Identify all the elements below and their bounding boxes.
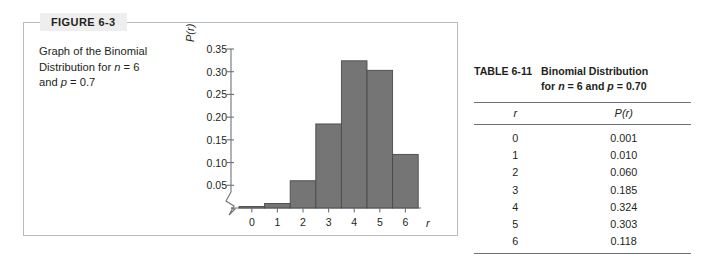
table-header-row: r P(r) [474,103,691,125]
chart-bar [393,154,419,208]
figure-caption-line-1: Graph of the Binomial [39,45,147,57]
cell-r: 2 [474,164,556,181]
figure-caption-line-2-prefix: Distribution for [39,61,114,73]
table-title-line-2-mid: = 6 and [565,80,608,92]
table-title-line-2-suffix: = 0.70 [614,80,647,92]
figure-caption: Graph of the Binomial Distribution for n… [39,44,189,91]
table-number-label: TABLE 6-11 [474,64,541,93]
chart-plot-area [190,30,440,235]
chart-bar [316,124,342,208]
table-bottom-rule-cell [474,254,691,255]
table-title: Binomial Distribution for n = 6 and p = … [541,64,648,93]
cell-r: 5 [474,215,556,232]
table-row: 40.324 [474,198,691,215]
column-header-pr: P(r) [556,103,691,125]
cell-r: 1 [474,147,556,164]
cell-probability: 0.303 [556,215,691,232]
chart-bar [367,70,393,208]
x-tick-label: 4 [346,217,362,227]
column-header-r: r [474,103,556,125]
table-row: 60.118 [474,233,691,254]
cell-r: 4 [474,198,556,215]
cell-r: 3 [474,181,556,198]
cell-probability: 0.324 [556,198,691,215]
cell-probability: 0.185 [556,181,691,198]
x-tick-label: 5 [372,217,388,227]
table-row: 00.001 [474,125,691,147]
x-tick-label: 3 [321,217,337,227]
binomial-distribution-table-block: TABLE 6-11 Binomial Distribution for n =… [474,64,691,254]
cell-probability: 0.118 [556,233,691,254]
chart-bar [265,203,291,208]
table-bottom-rule [474,254,691,255]
table-row: 10.010 [474,147,691,164]
figure-caption-line-3-suffix: = 0.7 [67,76,95,88]
table-caption: TABLE 6-11 Binomial Distribution for n =… [474,64,691,93]
table-title-line-2-prefix: for [541,80,558,92]
x-axis-title: r [426,217,430,229]
x-tick-label: 0 [244,217,260,227]
x-tick-label: 2 [295,217,311,227]
table-row: 50.303 [474,215,691,232]
chart-bar [290,181,316,208]
x-tick-label: 6 [397,217,413,227]
table-row: 30.185 [474,181,691,198]
table-row: 20.060 [474,164,691,181]
x-tick-label: 1 [269,217,285,227]
chart-bar [239,207,265,209]
chart-bar [341,61,367,208]
y-axis-break-symbol [226,192,235,215]
cell-probability: 0.010 [556,147,691,164]
cell-r: 0 [474,125,556,147]
probability-table: r P(r) 00.00110.01020.06030.18540.32450.… [474,102,691,254]
figure-caption-line-2-suffix: = 6 [120,61,139,73]
binomial-distribution-chart: P(r) 0.350.300.250.200.150.100.05 012345… [190,30,440,235]
figure-number-label: FIGURE 6-3 [40,13,127,31]
cell-probability: 0.001 [556,125,691,147]
cell-probability: 0.060 [556,164,691,181]
cell-r: 6 [474,233,556,254]
table-title-line-1: Binomial Distribution [541,65,648,77]
figure-caption-line-3-prefix: and [39,76,61,88]
